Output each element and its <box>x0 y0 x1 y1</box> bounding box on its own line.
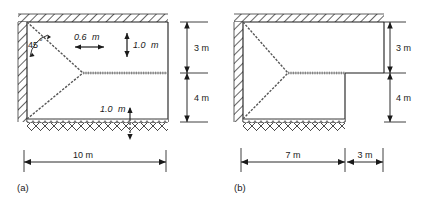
panel-b-left-wall <box>234 22 243 122</box>
panel-b-dim-3m-bottom: 3 m <box>357 150 372 160</box>
panel-a-bottom-dim: 10 m <box>24 150 166 172</box>
panel-b-domain-outline <box>345 22 384 122</box>
panel-a-dim-10m: 10 m <box>73 150 93 160</box>
panel-b-dim-7m: 7 m <box>285 150 300 160</box>
dim-1p0m-top-unit: m <box>151 40 159 50</box>
figure-canvas: 45 ° 0.6 m 1.0 m 1.0 m <box>0 0 424 203</box>
panel-a-dim-3m: 3 m <box>194 43 209 53</box>
dim-0p6m-unit: m <box>92 32 100 42</box>
panel-b-dim-3m: 3 m <box>396 43 411 53</box>
panel-a-dim-1p0m-top: 1.0 m <box>124 33 159 57</box>
panel-b-wedge-interface <box>243 22 288 119</box>
panel-a-top-wall <box>18 14 168 22</box>
panel-b-base-support <box>243 119 345 131</box>
diagram-svg: 45 ° 0.6 m 1.0 m 1.0 m <box>0 0 424 203</box>
panel-a-dim-4m: 4 m <box>194 93 209 103</box>
panel-b-dim-4m: 4 m <box>396 93 411 103</box>
panel-a-left-wall <box>18 22 27 122</box>
panel-b-right-dim-chain: 3 m 4 m <box>384 22 411 122</box>
panel-b-bottom-dim: 7 m 3 m <box>241 148 383 172</box>
panel-b-caption: (b) <box>234 182 246 193</box>
panel-a-dim-0p6m: 0.6 m <box>74 32 104 50</box>
panel-b-top-wall <box>234 14 384 22</box>
panel-a-angle-annotation: 45 ° <box>28 35 51 57</box>
panel-a-base-support <box>27 119 168 131</box>
dim-1p0m-bottom-label: 1.0 <box>100 104 113 114</box>
angle-label-45: 45 <box>28 40 38 50</box>
panel-a-caption: (a) <box>17 182 29 193</box>
panel-a-right-dim-chain: 3 m 4 m <box>180 22 209 122</box>
dim-1p0m-top-label: 1.0 <box>133 40 146 50</box>
dim-1p0m-bottom-unit: m <box>118 104 126 114</box>
panel-b: 3 m 4 m 7 m 3 m (b) <box>234 14 411 193</box>
panel-a: 45 ° 0.6 m 1.0 m 1.0 m <box>17 14 209 193</box>
dim-0p6m-label: 0.6 <box>74 32 87 42</box>
angle-degree-symbol: ° <box>39 37 43 47</box>
